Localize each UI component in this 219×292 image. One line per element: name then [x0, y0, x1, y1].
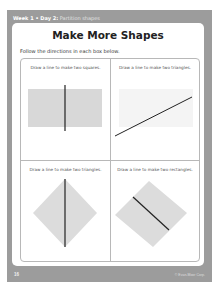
rectangle-split-diagonal-icon [111, 59, 200, 160]
exercise-box-2[interactable]: Draw a line to make two triangles. [110, 59, 199, 160]
page-number: 16 [14, 272, 19, 277]
instructions: Follow the directions in each box below. [20, 48, 120, 54]
rectangle-split-vertical-icon [21, 59, 110, 160]
footer-credit: © Evan-Moor Corp. [175, 273, 205, 277]
topic-label: Partition shapes [60, 15, 100, 21]
week-day-header: Week 1 • Day 2: Partition shapes [13, 15, 100, 21]
worksheet-card: Make More Shapes Follow the directions i… [12, 23, 204, 266]
exercise-box-4[interactable]: Draw a line to make two rectangles. [110, 160, 199, 261]
week-day-label: Week 1 • Day 2: [13, 15, 58, 21]
exercise-box-1[interactable]: Draw a line to make two squares. [21, 59, 110, 160]
diamond-split-vertical-icon [21, 161, 110, 262]
exercise-box-3[interactable]: Draw a line to make two triangles. [21, 160, 110, 261]
tilted-square-split-diagonal-icon [111, 161, 200, 262]
page-title: Make More Shapes [12, 29, 204, 41]
exercise-grid: Draw a line to make two squares. Draw a … [20, 58, 200, 262]
